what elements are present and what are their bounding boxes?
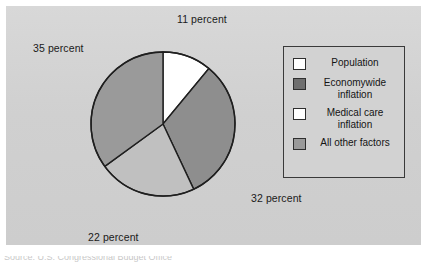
source-caption: Source: U.S. Congressional Budget Office bbox=[4, 256, 172, 262]
legend-label-line1: Economywide bbox=[313, 77, 397, 89]
caption-strip: Source: U.S. Congressional Budget Office bbox=[0, 256, 427, 267]
legend-label: Population bbox=[313, 57, 397, 69]
legend-swatch-icon bbox=[293, 108, 306, 120]
slice-label-population: 11 percent bbox=[177, 13, 227, 25]
legend-label-line1: Medical care bbox=[313, 107, 397, 119]
legend-items: PopulationEconomywideinflationMedical ca… bbox=[293, 57, 397, 157]
legend-label-line1: Population bbox=[313, 57, 397, 69]
slice-label-economywide-inflation: 32 percent bbox=[251, 192, 302, 204]
legend-swatch-icon bbox=[293, 58, 306, 70]
legend-swatch-icon bbox=[293, 78, 306, 90]
legend-label: Medical careinflation bbox=[313, 107, 397, 130]
legend-item[interactable]: All other factors bbox=[293, 137, 397, 150]
legend-label-line2: inflation bbox=[313, 89, 397, 101]
slice-label-medical-care-inflation: 22 percent bbox=[88, 231, 139, 243]
legend: PopulationEconomywideinflationMedical ca… bbox=[283, 46, 405, 178]
legend-item[interactable]: Population bbox=[293, 57, 397, 70]
legend-label-line1: All other factors bbox=[313, 137, 397, 149]
slice-label-all-other-factors: 35 percent bbox=[33, 42, 84, 54]
figure-container: 11 percent 35 percent 32 percent 22 perc… bbox=[0, 0, 427, 267]
legend-item[interactable]: Medical careinflation bbox=[293, 107, 397, 130]
legend-label: All other factors bbox=[313, 137, 397, 149]
legend-swatch-icon bbox=[293, 138, 306, 150]
legend-item[interactable]: Economywideinflation bbox=[293, 77, 397, 100]
pie-slice-group bbox=[91, 52, 235, 196]
legend-label-line2: inflation bbox=[313, 119, 397, 131]
legend-label: Economywideinflation bbox=[313, 77, 397, 100]
